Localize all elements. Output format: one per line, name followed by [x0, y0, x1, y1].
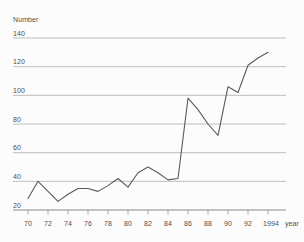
x-tick-label: 72 [44, 220, 52, 227]
x-tick-label: 80 [124, 220, 132, 227]
line-chart-canvas: Number year 2040608010012014070727476788… [0, 0, 304, 242]
y-tick-label: 60 [13, 144, 21, 151]
y-tick-label: 20 [13, 202, 21, 209]
x-tick-label: 88 [204, 220, 212, 227]
x-tick-label: 90 [224, 220, 232, 227]
x-tick-label: 92 [244, 220, 252, 227]
y-tick-label: 40 [13, 173, 21, 180]
x-tick-label: 76 [84, 220, 92, 227]
figure: Number year 2040608010012014070727476788… [0, 0, 304, 242]
y-tick-label: 80 [13, 116, 21, 123]
y-axis-title: Number [13, 16, 39, 23]
x-tick-label: 78 [104, 220, 112, 227]
x-tick-label: 84 [164, 220, 172, 227]
x-tick-label: 1994 [263, 220, 279, 227]
y-tick-label: 100 [13, 87, 25, 94]
x-tick-label: 86 [184, 220, 192, 227]
x-tick-label: 82 [144, 220, 152, 227]
x-tick-label: 70 [24, 220, 32, 227]
data-line [28, 52, 268, 201]
x-axis-unit-label: year [285, 220, 300, 228]
y-tick-label: 140 [13, 30, 25, 37]
x-tick-label: 74 [64, 220, 72, 227]
y-tick-label: 120 [13, 58, 25, 65]
